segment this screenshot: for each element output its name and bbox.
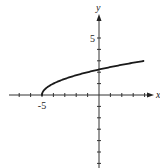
y-axis-arrow-icon <box>97 14 102 21</box>
function-graph: x y -5 5 <box>0 0 160 168</box>
y-axis-label: y <box>95 2 101 13</box>
x-axis-arrow-icon <box>147 93 154 98</box>
y-tick-label: 5 <box>90 33 95 44</box>
x-axis-label: x <box>155 89 160 100</box>
x-tick-label: -5 <box>38 100 46 111</box>
function-curve <box>42 61 143 95</box>
